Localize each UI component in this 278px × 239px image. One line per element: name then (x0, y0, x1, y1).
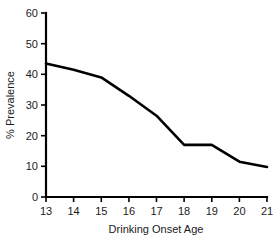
x-tick-label-14: 14 (67, 205, 79, 217)
x-tick-label-19: 19 (206, 205, 218, 217)
y-tick-label-50: 50 (26, 38, 38, 50)
chart-figure: 0 10 20 30 40 50 60 13 14 15 16 17 (0, 0, 278, 239)
x-tick-label-21: 21 (261, 205, 273, 217)
x-tick-label-20: 20 (233, 205, 245, 217)
x-tick-label-17: 17 (150, 205, 162, 217)
line-chart: 0 10 20 30 40 50 60 13 14 15 16 17 (0, 0, 278, 239)
x-tick-label-16: 16 (123, 205, 135, 217)
y-axis-title: % Prevalence (4, 71, 16, 139)
x-tick-label-15: 15 (95, 205, 107, 217)
x-axis-title: Drinking Onset Age (109, 223, 204, 235)
x-axis-tick-labels: 13 14 15 16 17 18 19 20 21 (40, 205, 273, 217)
y-tick-label-30: 30 (26, 99, 38, 111)
x-tick-label-13: 13 (40, 205, 52, 217)
y-tick-label-20: 20 (26, 130, 38, 142)
y-tick-label-0: 0 (32, 191, 38, 203)
y-tick-label-40: 40 (26, 68, 38, 80)
chart-background (0, 0, 278, 239)
y-tick-label-10: 10 (26, 160, 38, 172)
x-tick-label-18: 18 (178, 205, 190, 217)
y-tick-label-60: 60 (26, 7, 38, 19)
